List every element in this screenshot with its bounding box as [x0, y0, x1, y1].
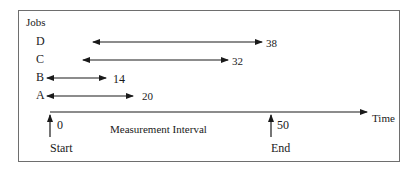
time-axis-label: Time [372, 112, 395, 124]
job-b-label: B [36, 71, 44, 83]
end-label: End [271, 142, 290, 154]
end-value: 50 [277, 119, 289, 131]
y-axis-title: Jobs [26, 16, 46, 28]
job-d-label: D [36, 35, 45, 47]
start-value: 0 [57, 119, 63, 131]
job-d-end-value: 38 [266, 37, 277, 49]
job-c-label: C [36, 53, 44, 65]
job-b-end-value: 14 [113, 73, 125, 85]
job-c-end-value: 32 [232, 55, 243, 67]
start-label: Start [50, 142, 73, 154]
measurement-interval-label: Measurement Interval [110, 123, 207, 135]
job-a-end-value: 20 [142, 90, 153, 102]
job-a-label: A [36, 89, 45, 101]
